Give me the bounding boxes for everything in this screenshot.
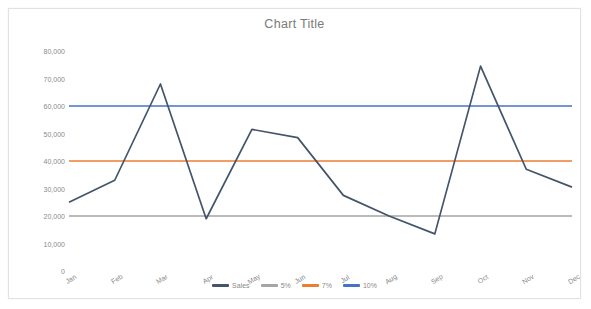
- legend-swatch-icon: [212, 284, 229, 287]
- legend-item[interactable]: 5%: [261, 282, 291, 289]
- legend-label: Sales: [232, 282, 250, 289]
- legend-label: 7%: [322, 282, 332, 289]
- chart-legend[interactable]: Sales5%7%10%: [9, 282, 580, 289]
- legend-swatch-icon: [343, 284, 360, 287]
- legend-label: 5%: [281, 282, 291, 289]
- legend-label: 10%: [363, 282, 377, 289]
- legend-item[interactable]: Sales: [212, 282, 250, 289]
- chart-frame[interactable]: Chart Title 010,00020,00030,00040,00050,…: [8, 8, 581, 299]
- legend-swatch-icon: [261, 284, 278, 287]
- legend-item[interactable]: 7%: [302, 282, 332, 289]
- x-axis: JanFebMarAprMayJunJulAugSepOctNovDec: [9, 9, 582, 300]
- legend-swatch-icon: [302, 284, 319, 287]
- legend-item[interactable]: 10%: [343, 282, 377, 289]
